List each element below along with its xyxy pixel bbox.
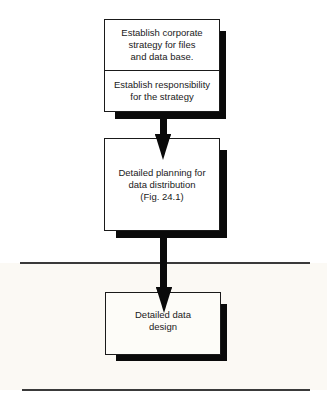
band-bottom-rule — [22, 389, 310, 391]
arrow-2-head-overlay — [156, 287, 172, 313]
strategy-box-label: Establish corporate strategy for files a… — [105, 20, 219, 70]
arrow-1-shaft — [160, 112, 167, 136]
arrow-1-head-overlay — [155, 134, 171, 160]
responsibility-box-label: Establish responsibility for the strateg… — [105, 70, 219, 111]
strategy-box: Establish corporate strategy for files a… — [104, 19, 220, 112]
arrow-2-shaft — [160, 231, 167, 291]
